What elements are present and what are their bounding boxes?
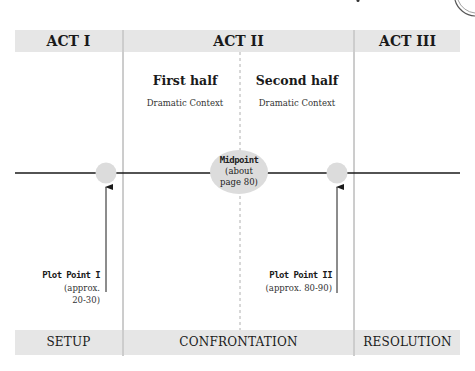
plot-point-two-node [327,163,348,184]
midpoint-label: Midpoint (about page 80) [210,155,268,188]
top-dot [357,0,360,2]
second-half-title: Second half [240,73,354,88]
first-half-context: Dramatic Context [130,98,240,108]
plot-point-one-title: Plot Point I [20,270,100,280]
plot-point-two-label: Plot Point II (approx. 80-90) [240,270,332,294]
midpoint-line1: (about [210,166,268,177]
second-half-context: Dramatic Context [240,98,354,108]
plot-point-one-label: Plot Point I (approx. 20-30) [20,270,100,306]
plot-point-two-line1: (approx. 80-90) [240,282,332,294]
plot-point-one-line2: 20-30) [20,294,100,306]
plot-point-one-line1: (approx. [20,282,100,294]
plot-point-one-node [96,163,117,184]
plot-point-two-title: Plot Point II [240,270,332,280]
midpoint-title: Midpoint [210,155,268,166]
midpoint-line2: page 80) [210,177,268,188]
first-half-title: First half [130,73,240,88]
corner-arc [455,0,475,16]
